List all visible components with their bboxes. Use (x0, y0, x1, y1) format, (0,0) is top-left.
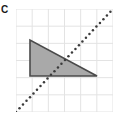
mirror-line-dot (36, 88, 39, 91)
mirror-line-dot (22, 103, 25, 106)
mirror-line-dot (64, 59, 66, 62)
mirror-line-dot (60, 62, 63, 64)
mirror-line-dot (39, 85, 42, 88)
mirror-line-dot (46, 77, 49, 80)
mirror-line-dot (92, 29, 95, 32)
mirror-line-dot (50, 74, 53, 77)
mirror-line-dot (25, 100, 28, 103)
mirror-line-dot (43, 81, 46, 84)
mirror-line-dot (78, 44, 81, 47)
mirror-line-dot (71, 51, 74, 54)
grid-plot-area (16, 9, 113, 112)
mirror-line-dot (99, 22, 102, 25)
mirror-line-dot (85, 36, 88, 39)
mirror-line-dot (29, 96, 32, 99)
mirror-line-dot (53, 70, 56, 73)
mirror-line-dot (106, 14, 109, 17)
mirror-line-dot (57, 66, 60, 69)
mirror-line-dot (18, 107, 21, 110)
mirror-line-dot (88, 33, 91, 36)
mirror-line-dot (102, 18, 105, 21)
geometry-diagram-svg (16, 9, 113, 112)
mirror-line-dot (74, 48, 77, 51)
mirror-line-dot (109, 11, 112, 14)
figure-container: C (0, 0, 126, 122)
figure-label-c: C (1, 5, 8, 15)
mirror-line-dot (32, 92, 35, 95)
mirror-line-dot (95, 25, 98, 28)
mirror-line-dot (67, 55, 70, 58)
mirror-line-dot (81, 40, 84, 43)
